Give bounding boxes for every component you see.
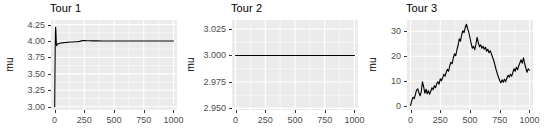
y-tick-label-tour-1: 4.00 (7, 36, 45, 46)
y-tick-mark-tour-1 (48, 107, 51, 108)
x-tick-label-tour-2: 750 (317, 115, 332, 125)
y-tick-label-tour-2: 2.950 (188, 103, 226, 113)
x-tick-label-tour-3: 750 (492, 115, 507, 125)
y-tick-mark-tour-2 (229, 55, 232, 56)
x-tick-label-tour-2: 250 (258, 115, 273, 125)
x-tick-label-tour-1: 750 (136, 115, 151, 125)
y-tick-label-tour-1: 3.00 (7, 102, 45, 112)
x-tick-mark-tour-1 (114, 110, 115, 113)
y-tick-mark-tour-1 (48, 90, 51, 91)
y-tick-label-tour-1: 3.75 (7, 52, 45, 62)
y-tick-label-tour-3: 30 (363, 26, 401, 36)
y-tick-label-tour-1: 4.25 (7, 20, 45, 30)
y-tick-label-tour-1: 3.25 (7, 85, 45, 95)
x-tick-label-tour-3: 1000 (519, 115, 539, 125)
y-tick-label-tour-2: 2.975 (188, 77, 226, 87)
x-tick-mark-tour-3 (440, 110, 441, 113)
x-tick-label-tour-1: 250 (77, 115, 92, 125)
y-tick-label-tour-1: 3.50 (7, 69, 45, 79)
y-tick-label-tour-3: 0 (363, 101, 401, 111)
x-tick-label-tour-3: 500 (462, 115, 477, 125)
y-tick-label-tour-3: 10 (363, 76, 401, 86)
x-tick-mark-tour-1 (84, 110, 85, 113)
x-tick-label-tour-1: 1000 (163, 115, 183, 125)
x-tick-mark-tour-1 (173, 110, 174, 113)
x-tick-mark-tour-2 (354, 110, 355, 113)
facet-title-tour-1: Tour 1 (50, 2, 81, 14)
facet-title-tour-2: Tour 2 (231, 2, 262, 14)
y-tick-mark-tour-3 (404, 56, 407, 57)
x-tick-label-tour-1: 500 (106, 115, 121, 125)
y-tick-label-tour-3: 20 (363, 51, 401, 61)
y-tick-mark-tour-3 (404, 31, 407, 32)
x-tick-mark-tour-1 (55, 110, 56, 113)
x-tick-label-tour-2: 0 (233, 115, 238, 125)
x-tick-label-tour-2: 1000 (344, 115, 364, 125)
x-tick-label-tour-3: 0 (408, 115, 413, 125)
plot-panel-tour-1 (51, 20, 177, 110)
x-tick-mark-tour-2 (236, 110, 237, 113)
x-tick-label-tour-2: 500 (287, 115, 302, 125)
y-tick-mark-tour-1 (48, 25, 51, 26)
y-tick-mark-tour-1 (48, 41, 51, 42)
y-tick-mark-tour-3 (404, 81, 407, 82)
y-tick-mark-tour-2 (229, 82, 232, 83)
x-tick-mark-tour-3 (411, 110, 412, 113)
y-tick-mark-tour-1 (48, 57, 51, 58)
y-tick-mark-tour-1 (48, 74, 51, 75)
y-tick-mark-tour-2 (229, 29, 232, 30)
x-tick-label-tour-1: 0 (52, 115, 57, 125)
x-tick-mark-tour-3 (500, 110, 501, 113)
plot-panel-tour-3 (407, 20, 533, 110)
plot-canvas-tour-2 (232, 20, 358, 110)
y-tick-mark-tour-3 (404, 106, 407, 107)
x-tick-mark-tour-3 (470, 110, 471, 113)
y-tick-label-tour-2: 3.000 (188, 50, 226, 60)
plot-canvas-tour-3 (407, 20, 533, 110)
x-tick-mark-tour-1 (144, 110, 145, 113)
plot-canvas-tour-1 (51, 20, 177, 110)
x-tick-label-tour-3: 250 (433, 115, 448, 125)
x-tick-mark-tour-3 (529, 110, 530, 113)
y-tick-label-tour-2: 3.025 (188, 24, 226, 34)
facet-plot-figure: Tour 1mu3.003.253.503.754.004.2502505007… (0, 0, 546, 135)
x-tick-mark-tour-2 (325, 110, 326, 113)
plot-panel-tour-2 (232, 20, 358, 110)
facet-title-tour-3: Tour 3 (406, 2, 437, 14)
x-tick-mark-tour-2 (295, 110, 296, 113)
y-tick-mark-tour-2 (229, 108, 232, 109)
x-tick-mark-tour-2 (265, 110, 266, 113)
